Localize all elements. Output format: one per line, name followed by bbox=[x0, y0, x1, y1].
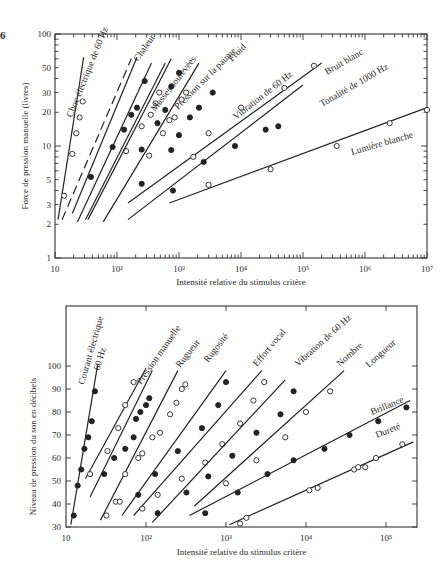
filled-data-point bbox=[235, 490, 240, 495]
top-series-5: Froid bbox=[88, 42, 248, 220]
fit-line bbox=[194, 371, 344, 507]
open-data-point bbox=[223, 481, 228, 486]
open-data-point bbox=[105, 449, 110, 454]
series-label: Brillance bbox=[369, 395, 405, 417]
bottom-y-tick-label: 70 bbox=[52, 430, 62, 440]
open-data-point bbox=[307, 488, 312, 493]
filled-data-point bbox=[322, 446, 327, 451]
open-data-point bbox=[104, 513, 109, 518]
top-y-axis-label: Force de pression manuelle (livres) bbox=[20, 83, 30, 210]
open-data-point bbox=[167, 118, 172, 123]
open-data-point bbox=[74, 131, 79, 136]
open-data-point bbox=[174, 400, 179, 405]
filled-data-point bbox=[170, 188, 175, 193]
top-x-tick-label: 10 bbox=[51, 264, 61, 274]
top-x-tick-label: 10⁴ bbox=[235, 264, 247, 274]
open-data-point bbox=[179, 476, 184, 481]
bottom-y-axis-label: Niveau de pression du son en décibels bbox=[28, 377, 38, 515]
series-label: Rugueur bbox=[174, 337, 203, 370]
top-chart: 1010²10³10⁴10⁵10⁶10⁷123510203050100Inten… bbox=[20, 25, 433, 287]
filled-data-point bbox=[206, 474, 211, 479]
fit-line bbox=[71, 364, 98, 525]
filled-data-point bbox=[86, 435, 91, 440]
open-data-point bbox=[238, 105, 243, 110]
filled-data-point bbox=[278, 412, 283, 417]
filled-data-point bbox=[199, 426, 204, 431]
open-data-point bbox=[183, 90, 188, 95]
open-data-point bbox=[148, 112, 153, 117]
filled-data-point bbox=[82, 446, 87, 451]
open-data-point bbox=[179, 97, 184, 102]
bottom-x-tick-label: 10 bbox=[62, 533, 72, 543]
fit-line bbox=[229, 442, 413, 525]
filled-data-point bbox=[139, 181, 144, 186]
bottom-x-tick-label: 10⁴ bbox=[300, 533, 312, 543]
open-data-point bbox=[70, 151, 75, 156]
bottom-chart: 1010²10³10⁴10⁵30405060708090100Intensité… bbox=[28, 306, 417, 557]
filled-data-point bbox=[291, 458, 296, 463]
open-data-point bbox=[237, 421, 242, 426]
filled-data-point bbox=[134, 105, 139, 110]
open-data-point bbox=[356, 465, 361, 470]
filled-data-point bbox=[155, 121, 160, 126]
open-data-point bbox=[179, 386, 184, 391]
fit-line bbox=[77, 63, 151, 222]
top-y-tick-label: 50 bbox=[42, 63, 52, 73]
top-series-7: Bruit blanc bbox=[128, 47, 365, 203]
open-data-point bbox=[140, 506, 145, 511]
fit-line bbox=[134, 371, 262, 516]
open-data-point bbox=[424, 107, 429, 112]
bottom-x-tick-label: 10⁵ bbox=[380, 533, 392, 543]
filled-data-point bbox=[163, 107, 168, 112]
top-x-tick-label: 10⁷ bbox=[421, 264, 433, 274]
open-data-point bbox=[61, 193, 66, 198]
top-x-tick-label: 10² bbox=[111, 264, 123, 274]
bottom-y-tick-label: 80 bbox=[52, 407, 62, 417]
filled-data-point bbox=[92, 389, 97, 394]
filled-data-point bbox=[201, 159, 206, 164]
filled-data-point bbox=[136, 492, 141, 497]
open-data-point bbox=[251, 398, 256, 403]
filled-data-point bbox=[216, 403, 221, 408]
filled-data-point bbox=[129, 112, 134, 117]
bottom-y-tick-label: 60 bbox=[52, 453, 62, 463]
bottom-x-tick-label: 10³ bbox=[220, 533, 232, 543]
filled-data-point bbox=[169, 84, 174, 89]
open-data-point bbox=[254, 458, 259, 463]
open-data-point bbox=[206, 182, 211, 187]
filled-data-point bbox=[230, 453, 235, 458]
top-y-tick-label: 5 bbox=[47, 175, 52, 185]
filled-data-point bbox=[276, 124, 281, 129]
filled-data-point bbox=[203, 511, 208, 516]
open-data-point bbox=[183, 382, 188, 387]
bottom-y-tick-label: 40 bbox=[52, 499, 62, 509]
top-series-0: Choc électrique de 60 Hz bbox=[58, 25, 110, 219]
filled-data-point bbox=[210, 90, 215, 95]
open-data-point bbox=[206, 131, 211, 136]
top-y-tick-label: 10 bbox=[42, 141, 52, 151]
filled-data-point bbox=[153, 472, 158, 477]
series-label: Choc électrique de 60 Hz bbox=[65, 25, 110, 118]
open-data-point bbox=[116, 426, 121, 431]
open-data-point bbox=[117, 499, 122, 504]
top-y-tick-label: 100 bbox=[38, 29, 52, 39]
filled-data-point bbox=[404, 405, 409, 410]
open-data-point bbox=[268, 167, 273, 172]
filled-data-point bbox=[138, 409, 143, 414]
open-data-point bbox=[282, 85, 287, 90]
open-data-point bbox=[172, 115, 177, 120]
series-label: Bruit blanc bbox=[323, 47, 365, 77]
filled-data-point bbox=[133, 416, 138, 421]
open-data-point bbox=[123, 403, 128, 408]
filled-data-point bbox=[263, 127, 268, 132]
filled-data-point bbox=[265, 472, 270, 477]
open-data-point bbox=[387, 121, 392, 126]
open-data-point bbox=[303, 409, 308, 414]
series-label: Rugosité bbox=[202, 331, 231, 364]
open-data-point bbox=[191, 154, 196, 159]
top-x-tick-label: 10³ bbox=[173, 264, 185, 274]
filled-data-point bbox=[175, 449, 180, 454]
bottom-y-tick-label: 90 bbox=[52, 384, 62, 394]
open-data-point bbox=[87, 472, 92, 477]
top-series-9: Lumière blanche bbox=[169, 107, 429, 203]
